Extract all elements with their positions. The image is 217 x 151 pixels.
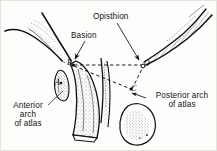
posterior-arch-of-atlas-body xyxy=(120,104,156,146)
leader-opisthion xyxy=(117,23,139,60)
label-opisthion: Opisthion xyxy=(93,12,129,21)
posterior-dens-margin xyxy=(101,58,110,128)
landmark-letter-posterior-arch: C xyxy=(131,85,136,93)
odontoid-process-and-axis-body xyxy=(70,61,99,142)
anatomical-figure: Opisthion Basion Anterior arch of atlas … xyxy=(0,0,217,151)
occipital-bone-right xyxy=(144,5,212,65)
leader-posterior-arch xyxy=(132,93,146,98)
clivus-left-skull-base xyxy=(5,13,71,63)
leader-basion xyxy=(75,41,85,59)
landmark-letter-opisthion: O xyxy=(144,60,150,68)
label-anterior-arch-of-atlas: Anterior arch of atlas xyxy=(5,101,51,129)
landmark-letter-basion: B xyxy=(67,59,72,67)
label-posterior-arch-of-atlas: Posterior arch of atlas xyxy=(148,91,216,109)
label-basion: Basion xyxy=(71,31,97,40)
point-anterior-arch xyxy=(60,82,63,85)
landmark-letter-anterior-arch: A xyxy=(55,79,60,87)
